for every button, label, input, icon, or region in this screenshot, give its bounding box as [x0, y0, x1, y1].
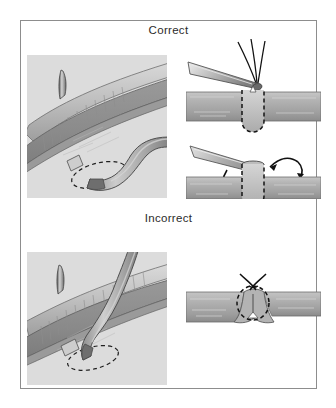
- graft-toe: [87, 179, 105, 190]
- panel-correct-left: [27, 55, 167, 198]
- panel-incorrect-right: [186, 272, 321, 347]
- anastomosis-window-top: [242, 90, 264, 132]
- panel-correct-right: [186, 36, 321, 199]
- section-label-correct: Correct: [20, 24, 317, 36]
- graft-cuff-top: [242, 161, 264, 164]
- forceps-instrument: [188, 62, 258, 89]
- vessel-limb-left: [186, 292, 244, 322]
- vessel-limb-right: [264, 292, 321, 316]
- panel-incorrect-left: [27, 252, 167, 385]
- anastomosis-window-bottom: [242, 164, 264, 199]
- figure-root: Correct Incorrect: [0, 0, 336, 408]
- crossed-suture-tails: [240, 274, 266, 290]
- section-label-incorrect: Incorrect: [20, 212, 317, 224]
- three-suture-strands: [238, 39, 265, 83]
